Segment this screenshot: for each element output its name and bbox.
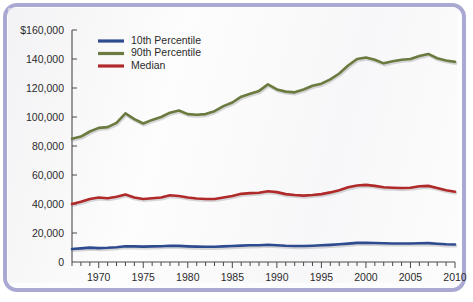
legend-label-10th-percentile: 10th Percentile — [131, 34, 201, 46]
x-axis-tick-label: 1980 — [176, 271, 200, 283]
legend-label-90th-percentile: 90th Percentile — [131, 46, 201, 58]
legend-label-median: Median — [131, 59, 166, 71]
x-axis-tick-label: 1975 — [132, 271, 156, 283]
x-axis-tick-marks — [72, 262, 455, 268]
y-axis-tick-label: 140,000 — [26, 53, 64, 65]
income-percentile-line-chart: 020,00040,00060,00080,000100,000120,0001… — [0, 0, 473, 302]
x-axis-tick-labels: 197019751980198519901995200020052010 — [87, 271, 467, 283]
x-axis-tick-label: 2005 — [399, 271, 423, 283]
y-axis-tick-label: 0 — [58, 256, 64, 268]
data-series-group — [72, 54, 456, 250]
y-axis-tick-label: 40,000 — [32, 198, 64, 210]
y-axis-tick-label: 100,000 — [26, 111, 64, 123]
y-axis-tick-label: 120,000 — [26, 82, 64, 94]
screenshot-root: 020,00040,00060,00080,000100,000120,0001… — [0, 0, 473, 302]
x-axis-tick-label: 1985 — [221, 271, 245, 283]
chart-legend: 10th Percentile90th PercentileMedian — [98, 34, 201, 71]
x-axis-tick-label: 2010 — [443, 271, 467, 283]
x-axis-tick-label: 1995 — [310, 271, 334, 283]
chart-canvas: 020,00040,00060,00080,000100,000120,0001… — [0, 0, 473, 302]
x-axis-tick-label: 1990 — [265, 271, 289, 283]
series-line-90th-percentile — [72, 54, 455, 139]
y-axis-tick-label: 60,000 — [32, 169, 64, 181]
x-axis-tick-label: 2000 — [354, 271, 378, 283]
x-axis-tick-label: 1970 — [87, 271, 111, 283]
y-axis-tick-label: 80,000 — [32, 140, 64, 152]
y-axis-tick-label: $160,000 — [20, 24, 64, 36]
y-axis-tick-label: 20,000 — [32, 227, 64, 239]
y-axis-tick-labels: 020,00040,00060,00080,000100,000120,0001… — [20, 24, 64, 268]
